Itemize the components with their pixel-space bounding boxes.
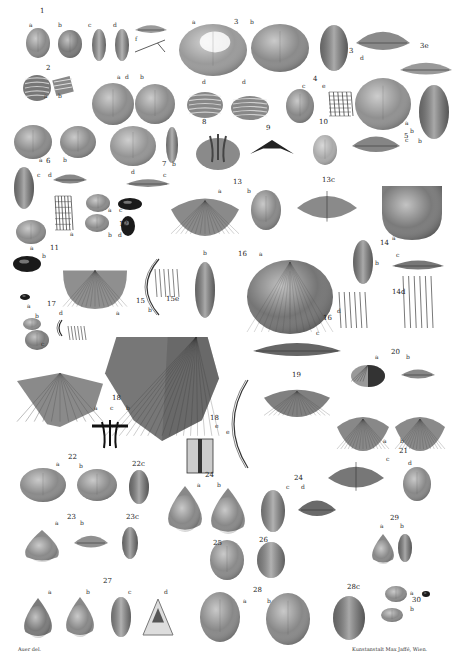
view-letter-label: e (226, 429, 230, 435)
specimen-3-c (320, 25, 348, 71)
specimen-28-a (200, 592, 240, 642)
specimen-13-a (171, 199, 239, 236)
specimen-13-c (297, 191, 357, 222)
specimen-19-2 (264, 390, 330, 417)
view-letter-label: d (301, 484, 305, 490)
figure-number-label: 18 (210, 415, 219, 422)
view-letter-label: d (337, 308, 341, 314)
view-letter-label: a (259, 251, 263, 257)
specimen-12-a (86, 194, 110, 212)
figure-number-label: 23c (126, 514, 139, 521)
specimen-11-a (55, 196, 73, 230)
figure-number-label: 10 (319, 119, 328, 126)
view-letter-label: a (56, 461, 60, 467)
figure-number-label: 12 (119, 221, 128, 228)
figure-number-label: 28 (253, 587, 262, 594)
view-letter-label: b (203, 250, 207, 256)
figure-2 (23, 75, 74, 101)
figure-13 (171, 190, 357, 236)
view-letter-label: b (86, 589, 90, 595)
fossil-plate (0, 0, 461, 661)
figure-18 (17, 337, 248, 473)
view-letter-label: a (218, 188, 222, 194)
view-letter-label: b (148, 307, 152, 313)
view-letter-label: a (197, 482, 201, 488)
specimen-7-c (126, 179, 170, 187)
view-letter-label: a (243, 598, 247, 604)
figure-4 (92, 83, 353, 125)
figure-number-label: 19 (292, 372, 301, 379)
specimen-13-b (251, 190, 281, 230)
specimen-3-d (356, 32, 410, 50)
figure-number-label: 3 (349, 48, 353, 55)
specimen-23-b (74, 536, 108, 548)
specimen-17-c (57, 320, 62, 336)
view-letter-label: a (117, 74, 121, 80)
view-letter-label: a (192, 19, 196, 25)
specimen-21-b (395, 417, 445, 451)
view-letter-label: c (128, 589, 131, 595)
view-letter-label: b (406, 354, 410, 360)
figure-number-label: 13 (233, 179, 242, 186)
figure-8 (196, 134, 240, 170)
figure-number-label: 28c (347, 584, 360, 591)
specimen-4-b (135, 84, 175, 124)
figure-number-label: 23 (67, 514, 76, 521)
specimen-14-a (382, 186, 442, 240)
specimen-22-c (129, 470, 149, 504)
specimen-3-b (251, 24, 309, 72)
figure-number-label: 14 (380, 240, 389, 247)
specimen-14-b (353, 240, 373, 284)
view-letter-label: a (29, 22, 33, 28)
view-letter-label: a (48, 589, 52, 595)
figure-number-label: 24 (205, 472, 214, 479)
view-letter-label: d (48, 172, 52, 178)
view-letter-label: c (286, 484, 289, 490)
specimen-19-c (253, 343, 341, 356)
view-letter-label: d (164, 589, 168, 595)
figure-26 (257, 542, 285, 578)
specimen-22-b (77, 469, 117, 501)
figure-15 (63, 259, 179, 315)
view-letter-label: a (44, 93, 48, 99)
specimen-24-a (168, 486, 202, 532)
view-letter-label: c (41, 341, 44, 347)
figure-number-label: 25 (213, 540, 222, 547)
figure-number-label: 13c (322, 177, 335, 184)
view-letter-label: b (58, 22, 62, 28)
figure-number-label: 16 (323, 315, 332, 322)
figure-number-label: 18 (112, 395, 121, 402)
view-letter-label: b (400, 523, 404, 529)
specimen-24-b (211, 488, 245, 534)
specimen-drawings (13, 24, 452, 645)
view-letter-label: d (59, 310, 63, 316)
view-letter-label: a (30, 245, 34, 251)
view-letter-label: c (422, 590, 425, 596)
specimen-18-f (232, 380, 248, 468)
specimen-20-a (351, 365, 385, 387)
figure-number-label: 6 (46, 158, 50, 165)
view-letter-label: a (375, 354, 379, 360)
specimen-1-b (58, 30, 82, 58)
view-letter-label: c (405, 137, 408, 143)
figure-7 (110, 126, 178, 187)
view-letter-label: a (55, 520, 59, 526)
view-letter-label: e (215, 423, 219, 429)
specimen-11-3 (13, 256, 41, 272)
specimen-27-d (143, 599, 173, 635)
figure-number-label: 3e (420, 43, 429, 50)
view-letter-label: a (383, 438, 387, 444)
figure-number-label: 16 (238, 251, 247, 258)
figure-number-label: 4 (313, 76, 317, 83)
view-letter-label: b (35, 313, 39, 319)
specimen-16-a (195, 262, 215, 318)
figure-24 (168, 486, 336, 534)
view-letter-label: d (125, 74, 129, 80)
specimen-3-e (400, 63, 452, 75)
figure-number-label: 24 (294, 475, 303, 482)
view-letter-label: c (386, 456, 389, 462)
figure-12 (85, 194, 142, 236)
specimen-2-b (52, 76, 74, 96)
figure-number-label: 30 (412, 597, 421, 604)
specimen-28-b (266, 593, 310, 645)
